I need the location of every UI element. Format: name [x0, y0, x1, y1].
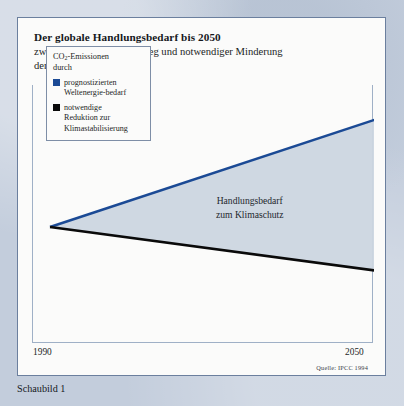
legend-item-reduction: notwendige Reduktion zur Klimastabilisie… [53, 103, 144, 135]
x-axis-label-start: 1990 [33, 347, 52, 357]
figure-caption: Schaubild 1 [17, 383, 65, 394]
legend-heading-line-2: durch [53, 63, 72, 72]
handlungsbedarf-label-line-2: zum Klimaschutz [216, 209, 283, 220]
chart-card: Der globale Handlungsbedarf bis 2050 zwi… [17, 17, 386, 376]
legend-heading: CO2-Emissionen durch [53, 52, 144, 74]
chart-legend: CO2-Emissionen durch prognostizierten We… [46, 46, 151, 141]
x-axis-label-end: 2050 [345, 347, 364, 357]
legend-swatch-black [53, 104, 60, 111]
legend-swatch-blue [53, 79, 60, 86]
legend-item-reduction-label: notwendige Reduktion zur Klimastabilisie… [64, 103, 128, 135]
legend-item-projection: prognostizierten Weltenergie-bedarf [53, 78, 144, 99]
page-title: Der globale Handlungsbedarf bis 2050 [34, 30, 364, 44]
source-note: Quelle: IPCC 1994 [228, 364, 368, 371]
legend-item-projection-label: prognostizierten Weltenergie-bedarf [64, 78, 126, 99]
handlungsbedarf-label: Handlungsbedarf zum Klimaschutz [216, 194, 283, 222]
handlungsbedarf-label-line-1: Handlungsbedarf [217, 195, 283, 206]
